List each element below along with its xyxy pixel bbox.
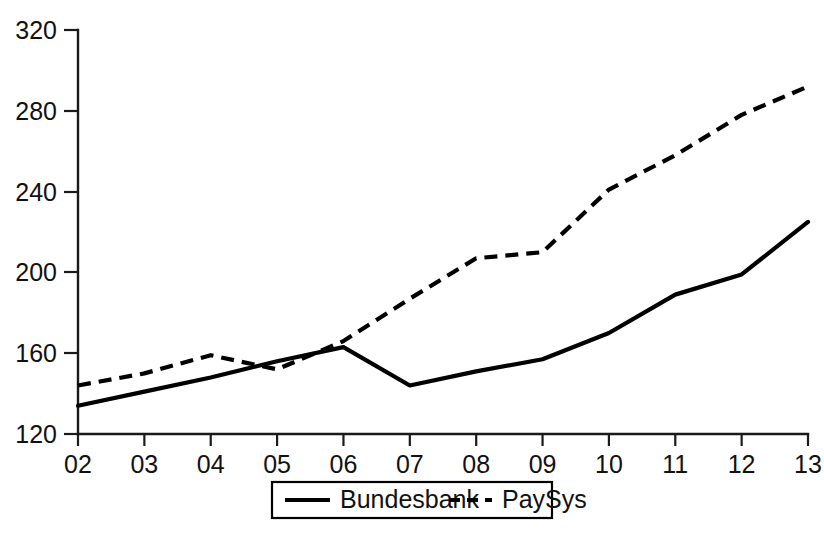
y-tick-label-240: 240	[15, 178, 57, 206]
x-axis-ticks	[78, 434, 808, 446]
y-axis-ticks	[64, 30, 78, 434]
x-tick-label-04: 04	[197, 450, 225, 478]
x-tick-label-13: 13	[794, 450, 822, 478]
x-tick-label-07: 07	[396, 450, 424, 478]
y-tick-label-280: 280	[15, 97, 57, 125]
legend: Bundesbank PaySys	[272, 482, 587, 518]
x-tick-label-08: 08	[462, 450, 490, 478]
y-tick-label-200: 200	[15, 258, 57, 286]
x-tick-label-10: 10	[595, 450, 623, 478]
x-tick-label-02: 02	[64, 450, 92, 478]
y-tick-label-160: 160	[15, 339, 57, 367]
y-axis-tick-labels: 320 280 240 200 160 120	[15, 16, 57, 448]
series-line-paysys	[78, 87, 808, 386]
x-axis-tick-labels: 020304050607080910111213	[64, 450, 822, 478]
y-axis: 320 280 240 200 160 120	[15, 16, 78, 448]
series-line-bundesbank	[78, 222, 808, 406]
x-tick-label-05: 05	[263, 450, 291, 478]
line-chart: 320 280 240 200 160 120 0203040506070809…	[0, 0, 824, 537]
chart-canvas: 320 280 240 200 160 120 0203040506070809…	[0, 0, 824, 537]
x-tick-label-09: 09	[529, 450, 557, 478]
legend-label-paysys: PaySys	[502, 485, 587, 513]
x-tick-label-06: 06	[330, 450, 358, 478]
x-tick-label-11: 11	[662, 450, 688, 478]
x-tick-label-12: 12	[728, 450, 756, 478]
x-axis: 020304050607080910111213	[64, 434, 822, 478]
y-tick-label-320: 320	[15, 16, 57, 44]
x-tick-label-03: 03	[130, 450, 158, 478]
y-tick-label-120: 120	[15, 420, 57, 448]
series-group	[78, 87, 808, 406]
